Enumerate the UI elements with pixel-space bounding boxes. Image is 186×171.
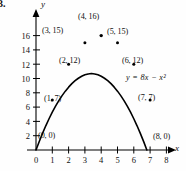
y-tick-label: 8 — [8, 88, 30, 98]
x-tick-label: 4 — [93, 155, 109, 165]
data-point — [100, 34, 103, 37]
y-tick-label: 4 — [8, 117, 30, 127]
y-tick-label: 14 — [6, 45, 30, 55]
y-axis-label: y — [41, 0, 45, 9]
point-label-8-0: (8, 0) — [153, 132, 170, 141]
x-tick-label: 7 — [142, 155, 158, 165]
data-point — [116, 41, 119, 44]
plot-canvas — [0, 0, 186, 171]
y-tick-label: 2 — [8, 131, 30, 141]
x-tick-label: 1 — [44, 155, 60, 165]
x-tick-label: 0 — [28, 155, 44, 165]
point-label-5-15: (5, 15) — [107, 27, 128, 36]
point-label-3-15: (3, 15) — [42, 26, 63, 35]
x-tick-label: 2 — [61, 155, 77, 165]
point-label-4-16: (4, 16) — [78, 12, 99, 21]
point-label-7-7: (7, 7) — [138, 93, 155, 102]
y-tick-label: 6 — [8, 102, 30, 112]
x-axis-label: x — [175, 143, 179, 153]
y-axis-arrowhead — [33, 9, 40, 17]
point-label-6-12: (6, 12) — [122, 56, 143, 65]
equation-annotation: y = 8x − x² — [126, 73, 166, 82]
x-tick-label: 3 — [77, 155, 93, 165]
x-tick-label: 8 — [158, 155, 174, 165]
x-tick-label: 6 — [126, 155, 142, 165]
parabola-figure: 3. — [0, 0, 186, 171]
y-tick-label: 12 — [6, 60, 30, 70]
point-label-1-7: (1, 7) — [44, 94, 61, 103]
y-tick-label: 10 — [6, 74, 30, 84]
x-tick-label: 5 — [110, 155, 126, 165]
point-label-0-0: (0, 0) — [38, 131, 55, 140]
point-label-2-12: (2, 12) — [59, 56, 80, 65]
data-point — [83, 41, 86, 44]
y-tick-label: 16 — [6, 31, 30, 41]
